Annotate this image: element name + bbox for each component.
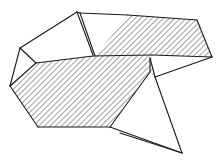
figure-canvas <box>0 0 220 160</box>
geometric-line-drawing <box>0 0 220 160</box>
